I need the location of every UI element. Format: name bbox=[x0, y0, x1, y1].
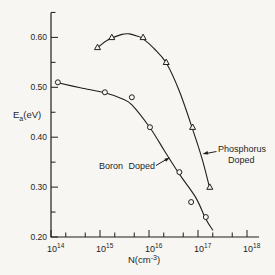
y-axis-label: Ea(eV) bbox=[13, 109, 41, 122]
axis-lines bbox=[51, 13, 259, 238]
doping-activation-energy-figure: 101410151016101710180.600.500.400.300.20… bbox=[0, 0, 275, 275]
phosphorus-annotation-arrowhead-icon bbox=[203, 151, 209, 155]
boron-doped-data-point-marker bbox=[55, 80, 60, 85]
x-tick-label: 1016 bbox=[145, 242, 163, 254]
boron-doped-data-point-marker bbox=[189, 200, 194, 205]
boron-doped-data-point-marker bbox=[102, 90, 107, 95]
phosphorus-doped-annotation-line2: Doped bbox=[228, 155, 255, 165]
phosphorus-doped-data-point-marker bbox=[95, 44, 101, 49]
phosphorus-doped-data-point-marker bbox=[207, 184, 213, 189]
phosphorus-doped-annotation-line1: Phosphorus bbox=[218, 144, 267, 154]
boron-doped-annotation: Boron Doped bbox=[99, 161, 155, 171]
x-tick-label: 1014 bbox=[47, 242, 65, 254]
y-tick-label: 0.60 bbox=[30, 32, 47, 42]
y-tick-label: 0.40 bbox=[30, 132, 47, 142]
x-axis-label: N(cm-3) bbox=[128, 254, 160, 266]
y-tick-label: 0.50 bbox=[30, 82, 47, 92]
boron-annotation-arrowhead-icon bbox=[164, 158, 170, 162]
boron-doped-data-point-marker bbox=[129, 95, 134, 100]
boron-doped-data-point-marker bbox=[177, 170, 182, 175]
x-tick-label: 1017 bbox=[194, 242, 212, 254]
doping-activation-energy-chart: 101410151016101710180.600.500.400.300.20… bbox=[0, 0, 275, 275]
boron-doped-curve bbox=[58, 83, 213, 230]
y-tick-label: 0.30 bbox=[30, 182, 47, 192]
y-tick-label: 0.20 bbox=[30, 232, 47, 242]
boron-doped-data-point-marker bbox=[203, 215, 208, 220]
x-tick-label: 1018 bbox=[243, 242, 261, 254]
boron-doped-data-point-marker bbox=[147, 125, 152, 130]
x-tick-label: 1015 bbox=[96, 242, 114, 254]
phosphorus-doped-data-point-marker bbox=[140, 34, 146, 39]
phosphorus-doped-data-point-marker bbox=[190, 124, 196, 129]
data-markers bbox=[55, 34, 212, 219]
